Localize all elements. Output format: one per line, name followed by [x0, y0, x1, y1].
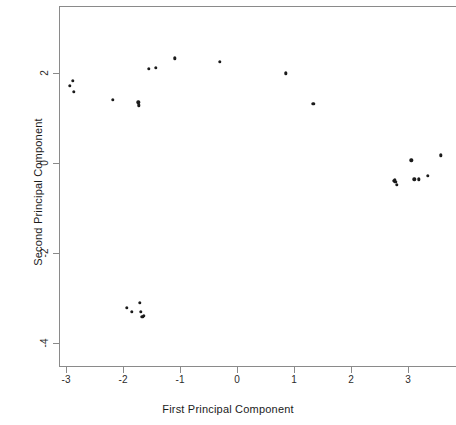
- y-tick-mark: [53, 343, 59, 344]
- x-tick-mark: [351, 367, 352, 373]
- x-tick-mark: [123, 367, 124, 373]
- x-tick-mark: [66, 367, 67, 373]
- data-point: [125, 306, 128, 309]
- data-point: [413, 177, 416, 180]
- data-point: [138, 301, 141, 304]
- y-axis-title: Second Principal Component: [32, 92, 44, 292]
- x-tick-label: -1: [176, 374, 185, 385]
- data-point: [312, 102, 315, 105]
- data-point: [111, 98, 114, 101]
- data-point: [426, 174, 429, 177]
- scatter-plot-figure: -3-2-10123 20-2-4 First Principal Compon…: [0, 0, 456, 425]
- y-tick-mark: [53, 253, 59, 254]
- y-tick-label: -4: [39, 337, 50, 349]
- x-tick-mark: [294, 367, 295, 373]
- data-point: [137, 104, 140, 107]
- y-tick-mark: [53, 163, 59, 164]
- x-tick-label: 2: [348, 374, 354, 385]
- data-point: [139, 310, 142, 313]
- y-tick-mark: [53, 73, 59, 74]
- data-point: [173, 56, 176, 59]
- data-point: [218, 60, 221, 63]
- data-point: [147, 67, 150, 70]
- data-point: [68, 84, 71, 87]
- x-tick-label: 1: [291, 374, 297, 385]
- plot-data-area: [59, 6, 456, 367]
- data-point: [154, 66, 157, 69]
- x-tick-label: 3: [405, 374, 411, 385]
- data-point: [417, 177, 420, 180]
- y-tick-label: 2: [39, 67, 50, 79]
- data-point: [72, 90, 75, 93]
- data-point: [439, 154, 442, 157]
- data-point: [410, 159, 413, 162]
- x-tick-label: -2: [119, 374, 128, 385]
- x-tick-mark: [408, 367, 409, 373]
- data-point: [142, 314, 145, 317]
- x-tick-mark: [237, 367, 238, 373]
- x-tick-label: -3: [62, 374, 71, 385]
- data-point: [284, 72, 287, 75]
- data-point: [395, 183, 398, 186]
- x-tick-mark: [180, 367, 181, 373]
- data-point: [130, 310, 133, 313]
- data-point: [71, 79, 74, 82]
- x-tick-label: 0: [234, 374, 240, 385]
- x-axis-title: First Principal Component: [0, 403, 456, 415]
